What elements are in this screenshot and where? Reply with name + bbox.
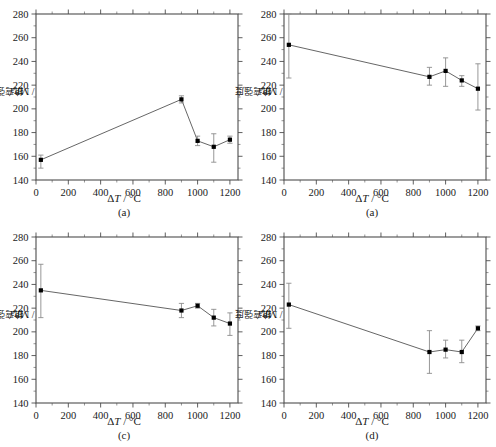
data-point (460, 78, 464, 82)
x-axis-unit: / °C (120, 192, 140, 204)
data-point (460, 350, 464, 354)
figure-root: 1401601802002202402602800200400600800100… (0, 0, 496, 447)
chart-panel-b: 1401601802002202402602800200400600800100… (248, 0, 496, 223)
plot-area-a: 1401601802002202402602800200400600800100… (0, 0, 248, 223)
data-point (179, 308, 183, 312)
x-axis-label-b: ΔT / °C (248, 192, 496, 204)
data-point (196, 139, 200, 143)
x-axis-unit: / °C (120, 415, 140, 427)
y-tick-label: 140 (13, 175, 29, 186)
chart-panel-a: 1401601802002202402602800200400600800100… (0, 0, 248, 223)
plot-svg: 1401601802002202402602800200400600800100… (0, 0, 248, 223)
y-axis-label-unit: / MPa (0, 309, 35, 320)
data-point (179, 97, 183, 101)
y-axis-label-unit: / MPa (247, 86, 283, 97)
data-point (228, 138, 232, 142)
data-point (287, 302, 291, 306)
y-axis-label-c: 抗弯强度 / MPa (2, 229, 18, 399)
chart-panel-c: 1401601802002202402602800200400600800100… (0, 223, 248, 446)
y-axis-label-a: 抗弯强度 / MPa (2, 6, 18, 176)
data-point (39, 288, 43, 292)
data-point (196, 304, 200, 308)
x-axis-label-a: ΔT / °C (0, 192, 248, 204)
y-axis-label-b: 抗弯强度 / MPa (250, 6, 266, 176)
data-point (39, 158, 43, 162)
panel-caption-b: (a) (248, 206, 496, 218)
plot-svg: 1401601802002202402602800200400600800100… (248, 0, 496, 223)
data-point (444, 69, 448, 73)
data-point (427, 75, 431, 79)
x-axis-label-c: ΔT / °C (0, 415, 248, 427)
panel-caption-c: (c) (0, 429, 248, 441)
data-point (212, 316, 216, 320)
y-axis-label-unit: / MPa (0, 86, 35, 97)
data-point (476, 87, 480, 91)
data-point (427, 350, 431, 354)
y-axis-label-d: 抗弯强度 / MPa (250, 229, 266, 399)
chart-panel-d: 1401601802002202402602800200400600800100… (248, 223, 496, 446)
x-axis-unit: / °C (368, 192, 388, 204)
data-point (444, 348, 448, 352)
plot-area-c: 1401601802002202402602800200400600800100… (0, 223, 248, 446)
panel-caption-a: (a) (0, 206, 248, 218)
panel-caption-d: (d) (248, 429, 496, 441)
x-axis-label-d: ΔT / °C (248, 415, 496, 427)
y-tick-label: 140 (13, 398, 29, 409)
plot-svg: 1401601802002202402602800200400600800100… (0, 223, 248, 446)
plot-svg: 1401601802002202402602800200400600800100… (248, 223, 496, 446)
data-point (476, 326, 480, 330)
x-axis-unit: / °C (368, 415, 388, 427)
data-point (287, 43, 291, 47)
plot-area-b: 1401601802002202402602800200400600800100… (248, 0, 496, 223)
y-axis-label-unit: / MPa (247, 309, 283, 320)
data-point (228, 321, 232, 325)
y-tick-label: 140 (261, 398, 277, 409)
y-tick-label: 140 (261, 175, 277, 186)
plot-area-d: 1401601802002202402602800200400600800100… (248, 223, 496, 446)
data-point (212, 145, 216, 149)
